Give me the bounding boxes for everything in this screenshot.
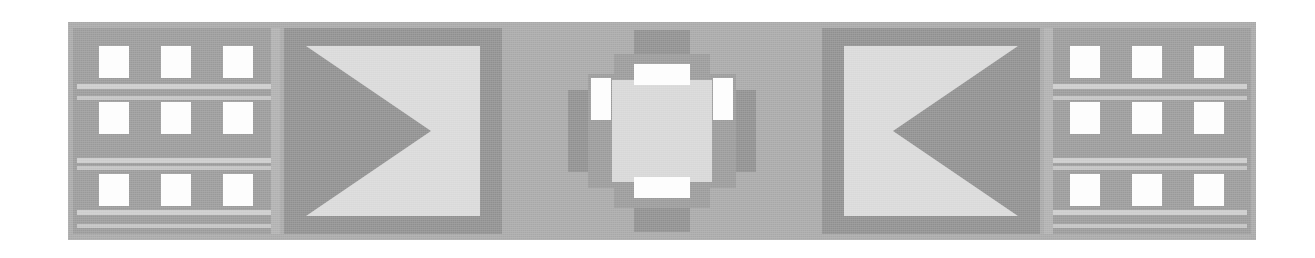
grid-stripe: [77, 210, 276, 215]
triangle-plate: [306, 46, 480, 216]
grid-panel-right: [1044, 28, 1251, 234]
grid-cell: [1070, 46, 1100, 78]
panel-edge-strip: [271, 28, 280, 234]
triangle-left-icon: [893, 46, 1018, 216]
grid-cell: [99, 174, 129, 206]
center-slot-bottom: [634, 177, 690, 198]
grid-cell: [1132, 102, 1162, 134]
grid-cell: [1070, 102, 1100, 134]
grid-stripe: [77, 96, 276, 100]
grid-cell: [1070, 174, 1100, 206]
grid-stripe: [1048, 224, 1247, 228]
grid-cell: [1194, 102, 1224, 134]
triangle-plate: [844, 46, 1018, 216]
grid-cell: [99, 102, 129, 134]
grid-cell: [223, 46, 253, 78]
grid-cell: [161, 174, 191, 206]
grid-stripe: [77, 224, 276, 228]
canvas: [0, 0, 1315, 258]
tri-panel-right: [822, 28, 1040, 234]
center-core-square: [612, 80, 712, 182]
grid-stripe: [77, 84, 276, 89]
grid-cell: [1194, 46, 1224, 78]
grid-panel-left: [73, 28, 280, 234]
grid-stripe: [1048, 166, 1247, 170]
panel-edge-strip: [1044, 28, 1053, 234]
center-slot-left: [591, 78, 611, 120]
grid-cell: [161, 102, 191, 134]
grid-stripe: [1048, 96, 1247, 100]
center-medallion: [562, 28, 762, 234]
grid-cell: [99, 46, 129, 78]
grid-cell: [161, 46, 191, 78]
center-slot-right: [713, 78, 733, 120]
center-slot-top: [634, 64, 690, 85]
grid-stripe: [1048, 84, 1247, 89]
symmetric-grayscale-banner: [68, 22, 1256, 240]
grid-cell: [1194, 174, 1224, 206]
grid-cell: [223, 102, 253, 134]
grid-stripe: [77, 166, 276, 170]
tri-panel-left: [284, 28, 502, 234]
grid-stripe: [1048, 158, 1247, 163]
grid-cell: [1132, 46, 1162, 78]
grid-stripe: [77, 158, 276, 163]
grid-cell: [223, 174, 253, 206]
triangle-right-icon: [306, 46, 431, 216]
grid-cell: [1132, 174, 1162, 206]
grid-stripe: [1048, 210, 1247, 215]
